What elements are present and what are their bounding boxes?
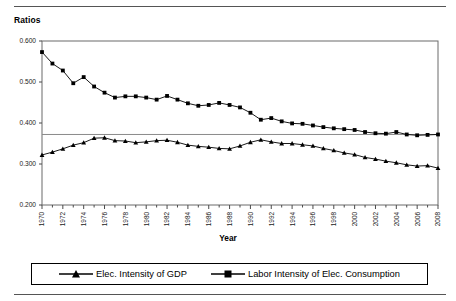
y-tick-label: 0.300 (19, 160, 36, 167)
data-point-square (269, 116, 273, 120)
y-tick-label: 0.400 (19, 119, 36, 126)
x-tick-label: 1984 (184, 212, 191, 227)
data-point-square (332, 126, 336, 130)
x-tick-label: 1970 (38, 212, 45, 227)
data-point-square (238, 106, 242, 110)
data-point-square (249, 111, 253, 115)
chart-figure: Ratios 0.2000.3000.4000.5000.60019701972… (0, 0, 456, 301)
data-point-square (301, 122, 305, 126)
x-tick-label: 1996 (309, 212, 316, 227)
data-point-square (92, 85, 96, 89)
data-point-square (311, 124, 315, 128)
x-tick-label: 1988 (226, 212, 233, 227)
data-point-square (82, 75, 86, 79)
data-point-square (280, 119, 284, 123)
x-tick-label: 1980 (143, 212, 150, 227)
data-point-square (165, 94, 169, 98)
x-tick-label: 2004 (393, 212, 400, 227)
data-point-square (217, 101, 221, 105)
x-tick-label: 2000 (351, 212, 358, 227)
data-point-square (405, 133, 409, 137)
data-point-square (207, 103, 211, 107)
data-point-square (384, 132, 388, 136)
chart-svg: 0.2000.3000.4000.5000.600197019721974197… (0, 0, 456, 260)
x-tick-label: 2002 (372, 212, 379, 227)
data-point-square (342, 127, 346, 131)
x-tick-label: 1974 (80, 212, 87, 227)
y-tick-label: 0.500 (19, 78, 36, 85)
data-point-square (40, 50, 44, 54)
square-marker-icon (211, 268, 245, 280)
data-point-square (103, 91, 107, 95)
x-tick-label: 1986 (205, 212, 212, 227)
data-point-square (196, 104, 200, 108)
plot-area: 0.2000.3000.4000.5000.600197019721974197… (0, 0, 456, 260)
plot-frame (42, 41, 438, 205)
x-tick-label: 1990 (247, 212, 254, 227)
x-tick-label: 1972 (59, 212, 66, 227)
data-point-square (61, 69, 65, 73)
x-axis-title: Year (0, 233, 456, 243)
x-tick-label: 1992 (268, 212, 275, 227)
data-point-square (186, 101, 190, 105)
data-point-square (436, 133, 440, 137)
data-point-square (113, 96, 117, 100)
bottom-divider (14, 294, 446, 295)
x-tick-label: 1998 (330, 212, 337, 227)
data-point-square (155, 98, 159, 102)
data-point-square (51, 62, 55, 66)
data-point-square (374, 131, 378, 135)
data-point-square (321, 125, 325, 129)
legend-label: Labor Intensity of Elec. Consumption (248, 269, 400, 279)
x-tick-label: 1978 (122, 212, 129, 227)
y-tick-label: 0.200 (19, 201, 36, 208)
legend-item-labor-intensity-elec[interactable]: Labor Intensity of Elec. Consumption (211, 268, 400, 280)
data-point-square (228, 103, 232, 107)
data-point-square (290, 122, 294, 126)
data-point-square (71, 81, 75, 85)
legend-label: Elec. Intensity of GDP (96, 269, 187, 279)
chart-legend: Elec. Intensity of GDP Labor Intensity o… (31, 263, 428, 285)
data-point-square (426, 133, 430, 137)
triangle-marker-icon (59, 268, 93, 280)
data-point-square (394, 130, 398, 134)
legend-item-elec-intensity-gdp[interactable]: Elec. Intensity of GDP (59, 268, 187, 280)
x-tick-label: 2006 (414, 212, 421, 227)
data-point-square (259, 118, 263, 122)
data-point-square (415, 133, 419, 137)
x-tick-label: 1994 (289, 212, 296, 227)
x-tick-label: 2008 (434, 212, 441, 227)
data-point-square (134, 94, 138, 98)
data-point-square (363, 130, 367, 134)
data-point-square (144, 96, 148, 100)
data-point-square (353, 128, 357, 132)
x-tick-label: 1976 (101, 212, 108, 227)
data-point-square (123, 94, 127, 98)
y-tick-label: 0.600 (19, 37, 36, 44)
x-tick-label: 1982 (163, 212, 170, 227)
data-point-square (176, 98, 180, 102)
